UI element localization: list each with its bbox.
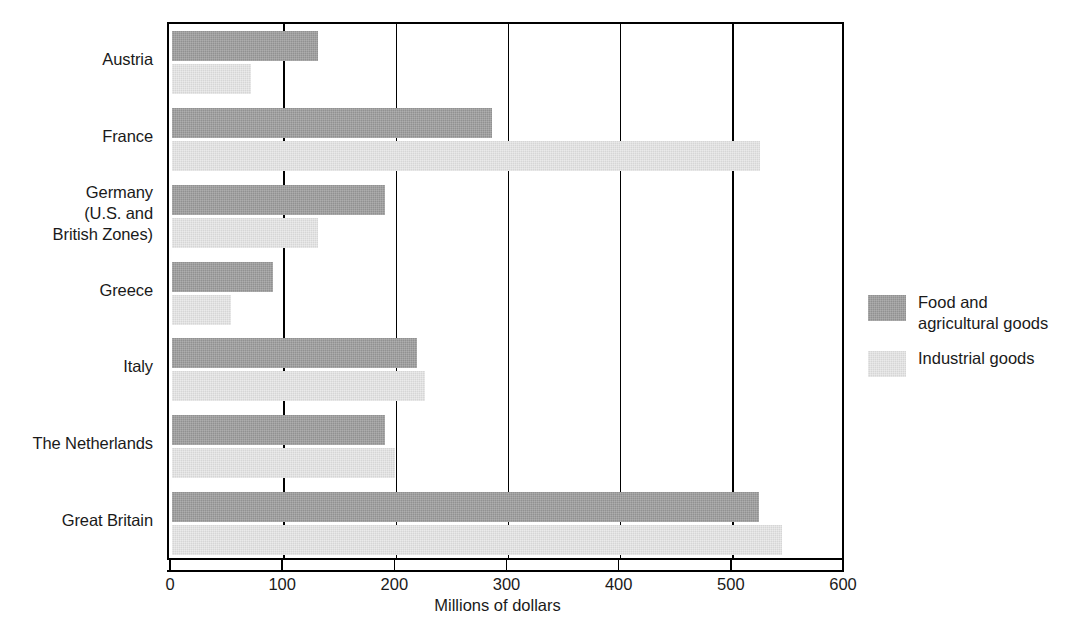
category-label-austria-line-0: Austria (102, 49, 153, 70)
bar-industrial-italy (172, 371, 425, 401)
x-tick-label-400: 400 (605, 574, 633, 594)
gridline-500 (732, 24, 734, 558)
legend-label-food-agricultural-line-1: agricultural goods (918, 313, 1083, 334)
x-tick-label-500: 500 (717, 574, 745, 594)
bar-industrial-greece (172, 295, 231, 325)
legend-swatch-food-agricultural (868, 295, 906, 321)
category-label-germany: Germany(U.S. andBritish Zones) (53, 182, 153, 245)
category-label-netherlands: The Netherlands (33, 433, 154, 454)
legend-label-industrial: Industrial goods (918, 348, 1083, 369)
category-label-greece-line-0: Greece (99, 280, 153, 301)
legend-item-food-agricultural: Food andagricultural goods (868, 292, 1083, 334)
x-tick-400 (618, 560, 620, 571)
x-tick-label-100: 100 (268, 574, 296, 594)
bar-chart: AustriaFranceGermany(U.S. andBritish Zon… (0, 0, 1085, 621)
x-axis-title: Millions of dollars (0, 596, 1085, 615)
legend-label-food-agricultural-line-0: Food and (918, 292, 1083, 313)
x-tick-100 (281, 560, 283, 571)
plot-area (167, 22, 844, 560)
bar-industrial-netherlands (172, 448, 395, 478)
category-label-france-line-0: France (102, 126, 153, 147)
category-label-germany-line-0: Germany (53, 182, 153, 203)
legend: Food andagricultural goodsIndustrial goo… (868, 292, 1083, 396)
x-tick-0 (169, 560, 171, 571)
legend-swatch-industrial (868, 351, 906, 377)
legend-label-industrial-line-0: Industrial goods (918, 348, 1083, 369)
bar-industrial-germany (172, 218, 318, 248)
bar-food-great-britain (172, 492, 759, 522)
category-label-france: France (102, 126, 153, 147)
plot-inner (169, 24, 842, 558)
legend-label-food-agricultural: Food andagricultural goods (918, 292, 1083, 334)
category-label-germany-line-2: British Zones) (53, 224, 153, 245)
x-tick-200 (394, 560, 396, 571)
category-label-greece: Greece (99, 280, 153, 301)
bar-industrial-great-britain (172, 525, 782, 555)
category-axis-labels: AustriaFranceGermany(U.S. andBritish Zon… (0, 22, 160, 560)
category-label-italy: Italy (123, 356, 153, 377)
category-label-italy-line-0: Italy (123, 356, 153, 377)
x-axis-title-text: Millions of dollars (434, 596, 561, 614)
x-tick-500 (730, 560, 732, 571)
gridline-400 (620, 24, 622, 558)
bar-food-france (172, 108, 492, 138)
bar-food-greece (172, 262, 273, 292)
bar-food-netherlands (172, 415, 385, 445)
bar-food-italy (172, 338, 417, 368)
legend-item-industrial: Industrial goods (868, 348, 1083, 382)
bar-food-germany (172, 185, 385, 215)
bar-industrial-france (172, 141, 760, 171)
category-label-austria: Austria (102, 49, 153, 70)
x-tick-label-200: 200 (381, 574, 409, 594)
x-tick-label-0: 0 (165, 574, 174, 594)
category-label-netherlands-line-0: The Netherlands (33, 433, 154, 454)
bar-industrial-austria (172, 64, 251, 94)
category-label-great-britain-line-0: Great Britain (62, 510, 153, 531)
category-label-germany-line-1: (U.S. and (53, 203, 153, 224)
bar-food-austria (172, 31, 318, 61)
gridline-200 (396, 24, 398, 558)
x-tick-300 (506, 560, 508, 571)
x-tick-label-300: 300 (493, 574, 521, 594)
x-tick-600 (842, 560, 844, 571)
x-tick-label-600: 600 (829, 574, 857, 594)
gridline-300 (508, 24, 510, 558)
category-label-great-britain: Great Britain (62, 510, 153, 531)
